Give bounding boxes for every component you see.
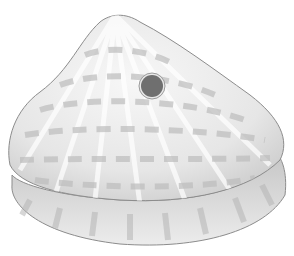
shell-hole xyxy=(139,73,165,99)
shell-illustration xyxy=(0,0,294,256)
upper-valve xyxy=(9,15,284,205)
shell-drawing xyxy=(0,0,294,256)
